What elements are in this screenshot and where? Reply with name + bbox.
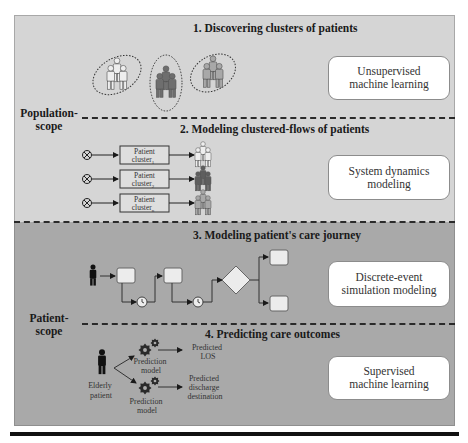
cluster-2 <box>150 55 182 111</box>
patient-group-icon <box>107 58 127 89</box>
patient-group-icon <box>195 142 211 167</box>
timer-icon-1 <box>137 297 147 307</box>
timer-icon-2 <box>193 297 203 307</box>
prediction-model-2-label: Prediction model <box>130 397 165 415</box>
gears-icon-model-1 <box>139 339 160 357</box>
source-icon <box>83 151 92 160</box>
elderly-patient-icon <box>98 349 106 374</box>
patient-group-icon <box>156 66 176 97</box>
cluster-boundary <box>150 55 182 111</box>
activity-box-1 <box>117 268 135 283</box>
prediction-model-1-label: Prediction model <box>134 357 169 375</box>
patient-icon <box>90 265 97 286</box>
activity-box-2 <box>164 268 182 283</box>
cluster-1 <box>86 47 148 102</box>
patient-group-icon <box>195 166 211 191</box>
activity-box-3 <box>270 250 288 265</box>
predicted-los-label: Predicted LOS <box>192 343 224 361</box>
gears-icon-model-2 <box>139 377 160 395</box>
patient-group-icon <box>203 56 223 87</box>
activity-box-4 <box>270 296 288 311</box>
bottom-rule <box>10 432 459 436</box>
predicted-discharge-label: Predicted discharge destination <box>187 374 222 401</box>
source-icon <box>83 199 92 208</box>
prediction-flow: Elderly patient Prediction model Predict… <box>88 339 224 416</box>
cluster-boundary <box>86 47 148 102</box>
patient-group-icon <box>195 190 211 215</box>
care-journey-flow <box>90 250 288 311</box>
flow-row-1: Patientcluster1 <box>83 142 212 167</box>
cluster-3 <box>184 46 243 99</box>
diagram-graphics: Patientcluster1Patientcluster2Patientclu… <box>0 0 468 443</box>
decision-diamond <box>222 266 250 294</box>
elderly-patient-label: Elderly patient <box>88 381 114 400</box>
flow-row-2: Patientcluster2 <box>83 166 212 191</box>
source-icon <box>83 175 92 184</box>
cluster-boundary <box>184 46 243 99</box>
flow-row-3: Patientclustern <box>83 190 212 215</box>
